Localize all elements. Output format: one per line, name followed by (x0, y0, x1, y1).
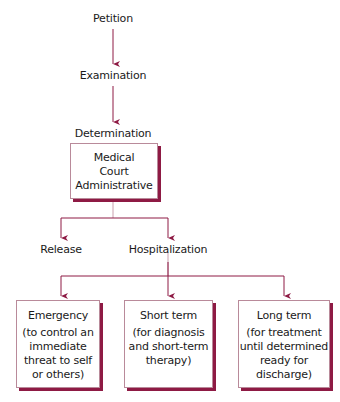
release-label: Release (40, 243, 82, 256)
long-term-desc-line: until determined (239, 340, 329, 354)
emergency-desc-line: threat to self (17, 354, 99, 368)
emergency-desc-line: or others) (17, 368, 99, 382)
short-term-title: Short term (125, 309, 212, 323)
emergency-title: Emergency (17, 309, 99, 323)
long-term-title: Long term (239, 309, 329, 323)
long-term-desc-line: discharge) (239, 368, 329, 382)
emergency-box: Emergency (to control an immediate threa… (16, 300, 100, 388)
petition-label: Petition (93, 12, 133, 25)
emergency-desc-line: (to control an (17, 326, 99, 340)
hospitalization-label: Hospitalization (129, 243, 208, 256)
examination-label: Examination (80, 69, 147, 82)
long-term-desc-line: ready for (239, 354, 329, 368)
short-term-desc-line: and short-term (125, 340, 212, 354)
short-term-desc-line: therapy) (125, 354, 212, 368)
determination-box: Medical Court Administrative (70, 143, 158, 199)
determination-medical: Medical (71, 151, 157, 165)
determination-administrative: Administrative (71, 179, 157, 193)
short-term-desc-line: (for diagnosis (125, 326, 212, 340)
long-term-box: Long term (for treatment until determine… (238, 300, 330, 388)
short-term-box: Short term (for diagnosis and short-term… (124, 300, 213, 388)
emergency-desc-line: immediate (17, 340, 99, 354)
long-term-desc-line: (for treatment (239, 326, 329, 340)
determination-court: Court (71, 165, 157, 179)
determination-label: Determination (75, 127, 152, 140)
